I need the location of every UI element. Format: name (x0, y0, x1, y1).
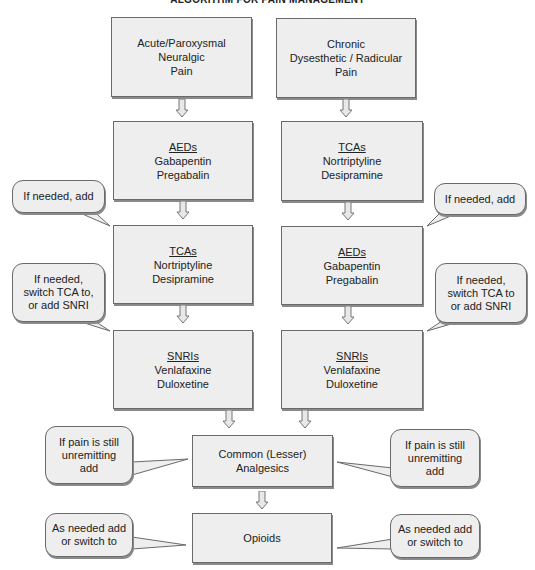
callout-left-switch: If needed, switch TCA to, or add SNRI (12, 263, 105, 322)
callout-left-add: If needed, add (12, 180, 105, 213)
box-line: Pregabalin (157, 168, 210, 182)
down-arrow-icon (298, 410, 312, 430)
box-common-analgesics: Common (Lesser) Analgesics (192, 435, 333, 487)
callout-line: If needed, (34, 273, 83, 286)
box-line: Duloxetine (157, 377, 209, 391)
box-left-snris: SNRIs Venlafaxine Duloxetine (113, 330, 253, 409)
callout-left-opioid: As needed add or switch to (45, 513, 133, 557)
box-heading: AEDs (338, 245, 366, 259)
box-right-aeds: AEDs Gabapentin Pregabalin (281, 226, 423, 305)
box-line: Acute/Paroxysmal (137, 36, 226, 50)
down-arrow-icon (255, 491, 269, 511)
box-line: Desipramine (321, 168, 383, 182)
box-left-tcas: TCAs Nortriptyline Desipramine (113, 225, 253, 304)
down-arrow-icon (341, 306, 355, 326)
box-line: Nortriptyline (154, 258, 213, 272)
callout-line: unremitting (408, 452, 462, 465)
box-line: Venlafaxine (324, 363, 381, 377)
callout-line: add (426, 465, 444, 478)
box-right-snris: SNRIs Venlafaxine Duloxetine (281, 330, 423, 409)
box-line: Pregabalin (326, 273, 379, 287)
box-heading: TCAs (169, 244, 197, 258)
box-line: Neuralgic (158, 50, 204, 64)
box-line: Desipramine (152, 272, 214, 286)
callout-line: If pain is still (405, 439, 465, 452)
callout-line: add (80, 462, 98, 475)
callout-line: If needed, add (23, 190, 93, 203)
down-arrow-icon (176, 305, 190, 325)
box-right-tcas: TCAs Nortriptyline Desipramine (281, 121, 423, 201)
callout-right-switch: If needed, switch TCA to or add SNRI (435, 263, 527, 323)
down-arrow-icon (341, 202, 355, 222)
box-line: Pain (170, 64, 192, 78)
callout-line: switch TCA to (447, 287, 514, 300)
box-line: Duloxetine (326, 377, 378, 391)
callout-line: If pain is still (59, 436, 119, 449)
callout-line: switch TCA to, (23, 286, 93, 299)
down-arrow-icon (222, 410, 236, 430)
callout-line: or switch to (407, 536, 463, 549)
box-line: Pain (335, 65, 357, 79)
callout-right-unremitting: If pain is still unremitting add (390, 429, 480, 487)
box-line: Opioids (243, 531, 280, 545)
callout-line: or add SNRI (28, 299, 89, 312)
box-line: Chronic (327, 37, 365, 51)
down-arrow-icon (339, 99, 353, 119)
diagram-title: ALGORITHM FOR PAIN MANAGEMENT (0, 0, 535, 5)
box-line: Analgesics (236, 461, 289, 475)
box-line: Dysesthetic / Radicular (290, 51, 403, 65)
callout-left-unremitting: If pain is still unremitting add (45, 426, 133, 484)
box-heading: TCAs (338, 140, 366, 154)
callout-right-opioid: As needed add or switch to (390, 514, 480, 558)
callout-line: or switch to (61, 535, 117, 548)
box-heading: SNRIs (167, 349, 199, 363)
callout-line: As needed add (52, 522, 126, 535)
box-left-aeds: AEDs Gabapentin Pregabalin (113, 121, 253, 200)
box-acute-pain: Acute/Paroxysmal Neuralgic Pain (111, 17, 252, 97)
callout-right-add: If needed, add (434, 183, 526, 215)
callout-line: If needed, add (445, 193, 515, 206)
box-opioids: Opioids (192, 513, 332, 563)
box-line: Gabapentin (324, 259, 381, 273)
callout-line: unremitting (62, 449, 116, 462)
down-arrow-icon (176, 201, 190, 221)
box-line: Gabapentin (155, 154, 212, 168)
callout-line: or add SNRI (451, 300, 512, 313)
box-line: Nortriptyline (323, 154, 382, 168)
box-line: Venlafaxine (155, 363, 212, 377)
box-chronic-pain: Chronic Dysesthetic / Radicular Pain (276, 18, 416, 98)
callout-line: As needed add (398, 523, 472, 536)
callout-line: If needed, (457, 274, 506, 287)
box-heading: SNRIs (336, 349, 368, 363)
down-arrow-icon (175, 99, 189, 119)
box-line: Common (Lesser) (218, 447, 306, 461)
box-heading: AEDs (169, 140, 197, 154)
